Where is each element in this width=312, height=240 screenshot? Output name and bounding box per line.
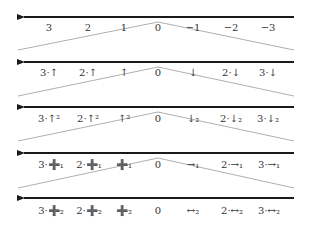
row-4-labels: 3·➕₁ 2·➕₁ ➕₁ 0 →₁ 2·→₁ 3·→₁ — [38, 158, 280, 171]
tick-label: ↑ — [120, 67, 128, 78]
tick-label: 0 — [155, 22, 161, 33]
tick-label: −3 — [261, 22, 276, 33]
row-2-labels: 3·↑ 2·↑ ↑ 0 ↓ 2·↓ 3·↓ — [40, 67, 277, 78]
tick-label: 3·➕₁ — [38, 158, 64, 171]
tick-label: 0 — [155, 159, 161, 170]
tick-label: 3·→₁ — [258, 159, 280, 170]
tick-label: 3 — [46, 22, 52, 33]
tick-label: 3·↔₂ — [258, 205, 280, 216]
tick-label: −2 — [224, 22, 239, 33]
tick-label: ↓ — [189, 67, 197, 78]
tick-label: 2·➕₂ — [76, 204, 102, 217]
tick-label: 3·↓₂ — [257, 113, 279, 124]
row-3-labels: 3·↑² 2·↑² ↑² 0 ↓₂ 2·↓₂ 3·↓₂ — [38, 113, 279, 124]
tick-label: 2·➕₁ — [76, 158, 102, 171]
tick-label: 2·↑ — [79, 67, 97, 78]
number-line-diagram: 3 2 1 0 −1 −2 −3 3·↑ 2·↑ ↑ 0 ↓ 2·↓ 3·↓ 3… — [0, 0, 312, 240]
row-1-labels: 3 2 1 0 −1 −2 −3 — [46, 22, 276, 33]
tick-label: 0 — [155, 113, 161, 124]
tick-label: 3·➕₂ — [38, 204, 64, 217]
tick-label: 0 — [155, 67, 161, 78]
tick-label: 2·↔₂ — [221, 205, 243, 216]
tick-label: ↑² — [118, 113, 130, 124]
axes — [24, 17, 294, 198]
tick-label: 2 — [85, 22, 91, 33]
tick-label: →₁ — [187, 159, 199, 170]
tick-label: 3·↑² — [38, 113, 60, 124]
tick-label: 2·↓ — [222, 67, 240, 78]
tick-label: 2·→₁ — [221, 159, 243, 170]
row-5-labels: 3·➕₂ 2·➕₂ ➕₂ 0 ↔₂ 2·↔₂ 3·↔₂ — [38, 204, 280, 217]
tick-label: ↓₂ — [187, 113, 199, 124]
tick-label: 0 — [155, 205, 161, 216]
tick-label: 2·↓₂ — [220, 113, 242, 124]
tick-label: 2·↑² — [77, 113, 99, 124]
tick-label: ➕₂ — [116, 204, 132, 217]
tick-label: 3·↓ — [259, 67, 277, 78]
tick-label: ↔₂ — [187, 205, 199, 216]
tick-label: −1 — [186, 22, 201, 33]
tick-label: 3·↑ — [40, 67, 58, 78]
tick-label: ➕₁ — [116, 158, 132, 171]
tick-label: 1 — [121, 22, 127, 33]
